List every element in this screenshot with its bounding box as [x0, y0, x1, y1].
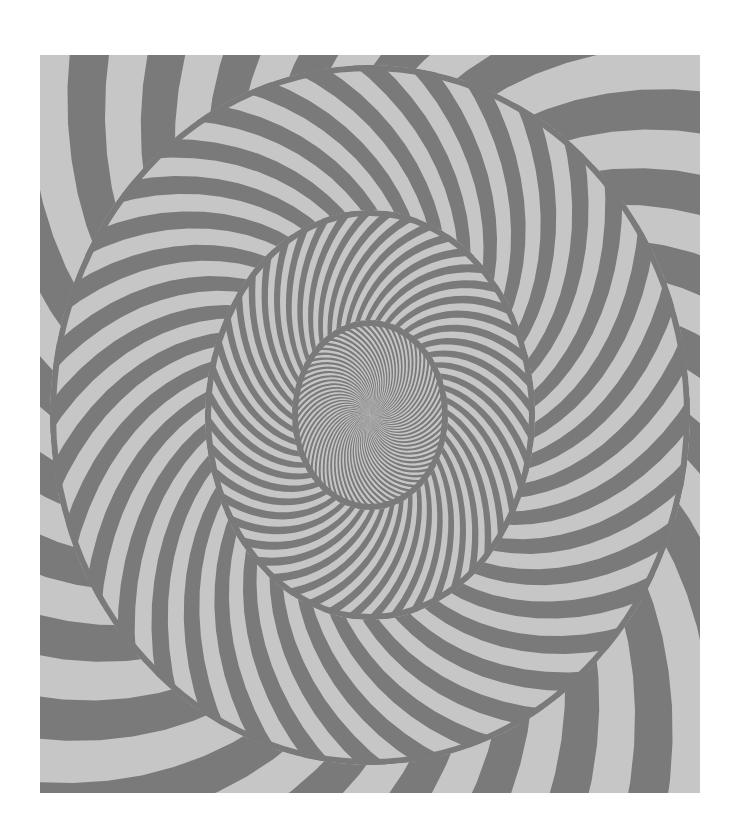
spiral-canvas: [40, 55, 700, 793]
op-art-spiral-artwork: [40, 55, 700, 793]
